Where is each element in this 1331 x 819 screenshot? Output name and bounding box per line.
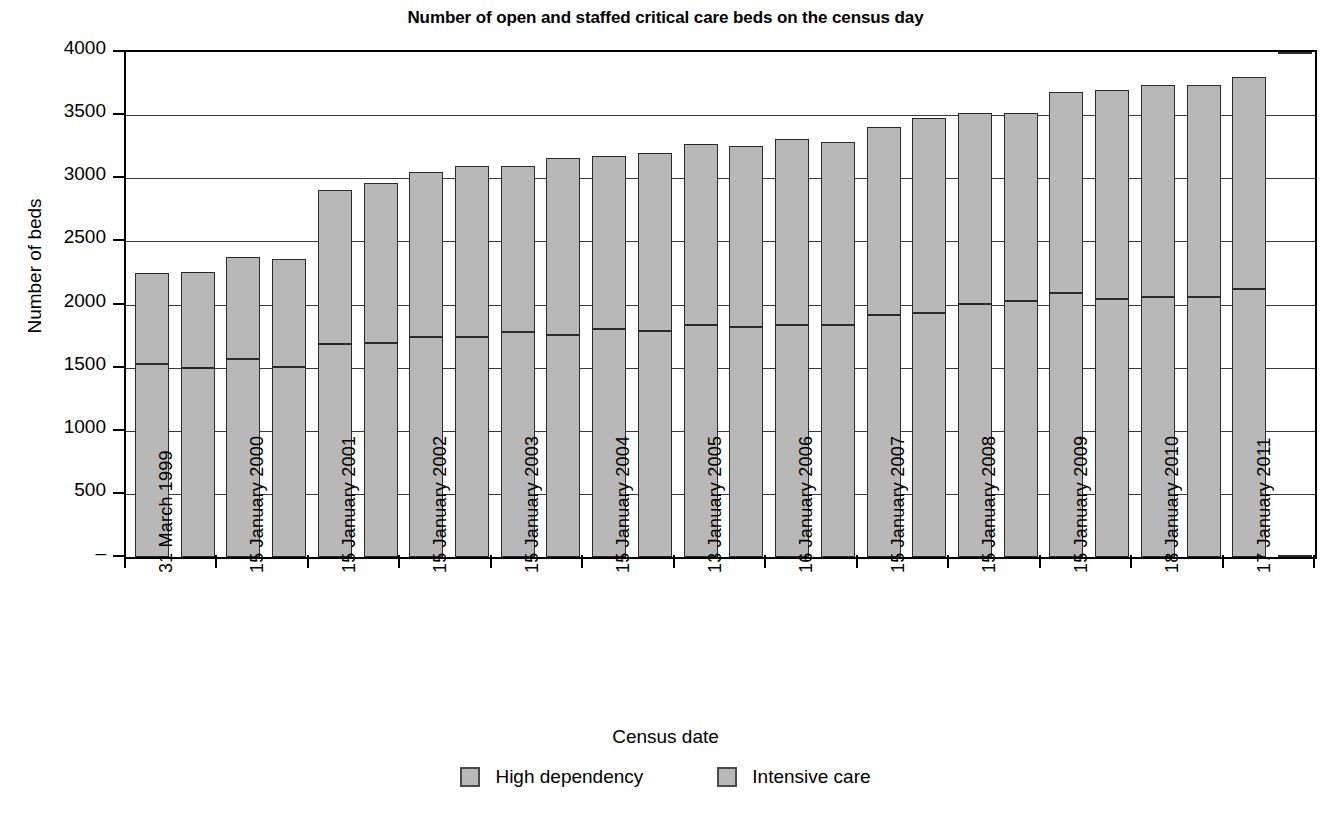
bar-segment-high-dependency[interactable]: [226, 257, 260, 359]
bar-segment-high-dependency[interactable]: [684, 144, 718, 325]
legend-item[interactable]: High dependency: [460, 766, 643, 788]
bar-segment-high-dependency[interactable]: [409, 172, 443, 337]
x-axis-tick-label: 15 January 2007: [888, 436, 909, 573]
bar-group[interactable]: [272, 52, 306, 557]
bar-segment-high-dependency[interactable]: [821, 142, 855, 326]
bar-segment-high-dependency[interactable]: [1095, 90, 1129, 300]
bar-segment-intensive-care[interactable]: [1095, 299, 1129, 557]
y-axis-tick-mark: [113, 176, 124, 178]
x-axis-tick-label: 15 January 2001: [339, 436, 360, 573]
x-axis-tick-mark: [673, 555, 675, 568]
bar-segment-high-dependency[interactable]: [1004, 113, 1038, 302]
x-axis-tick-mark: [215, 555, 217, 568]
bar-group[interactable]: [821, 52, 855, 557]
bar-segment-high-dependency[interactable]: [1278, 52, 1312, 54]
x-axis-tick-label: 15 January 2008: [979, 436, 1000, 573]
legend-swatch-icon: [717, 767, 737, 787]
y-axis-tick-label: 2500: [26, 226, 106, 248]
bar-segment-high-dependency[interactable]: [501, 166, 535, 333]
bar-segment-intensive-care[interactable]: [1004, 301, 1038, 557]
bar-segment-high-dependency[interactable]: [912, 118, 946, 313]
x-axis-tick-label: 15 January 2009: [1071, 436, 1092, 573]
bar-group[interactable]: [364, 52, 398, 557]
bar-segment-intensive-care[interactable]: [272, 367, 306, 557]
y-axis-tick-label: 500: [26, 479, 106, 501]
bar-group[interactable]: [638, 52, 672, 557]
x-axis-tick-mark: [1313, 555, 1315, 568]
y-axis-tick-mark: [113, 239, 124, 241]
bar-segment-intensive-care[interactable]: [729, 327, 763, 557]
bar-segment-high-dependency[interactable]: [546, 158, 580, 335]
bar-segment-intensive-care[interactable]: [638, 331, 672, 557]
bar-segment-high-dependency[interactable]: [318, 190, 352, 345]
bar-segment-intensive-care[interactable]: [821, 325, 855, 557]
bar-segment-high-dependency[interactable]: [1141, 85, 1175, 296]
bar-segment-intensive-care[interactable]: [1187, 297, 1221, 557]
x-axis-tick-label: 13 January 2005: [705, 436, 726, 573]
x-axis-tick-label: 31 March 1999: [156, 450, 177, 573]
bar-group[interactable]: [455, 52, 489, 557]
x-axis-tick-mark: [764, 555, 766, 568]
legend-swatch-icon: [460, 767, 480, 787]
bar-segment-high-dependency[interactable]: [1232, 77, 1266, 289]
x-axis-tick-label: 15 January 2004: [613, 436, 634, 573]
y-axis-tick-label: 2000: [26, 290, 106, 312]
y-axis-tick-mark: [113, 555, 124, 557]
x-axis-tick-mark: [490, 555, 492, 568]
bar-segment-intensive-care[interactable]: [455, 337, 489, 557]
bar-group[interactable]: [1095, 52, 1129, 557]
bar-segment-intensive-care[interactable]: [181, 368, 215, 557]
bar-group[interactable]: [1278, 52, 1312, 557]
legend-item[interactable]: Intensive care: [717, 766, 870, 788]
bar-segment-high-dependency[interactable]: [958, 113, 992, 304]
x-axis-tick-mark: [1222, 555, 1224, 568]
y-axis-tick-label: 4000: [26, 37, 106, 59]
bar-segment-high-dependency[interactable]: [729, 146, 763, 327]
x-axis-tick-label: 16 January 2006: [796, 436, 817, 573]
bar-segment-high-dependency[interactable]: [775, 139, 809, 326]
critical-care-beds-chart: Number of open and staffed critical care…: [0, 0, 1331, 819]
x-axis-tick-mark: [307, 555, 309, 568]
bar-segment-intensive-care[interactable]: [546, 335, 580, 557]
x-axis-title: Census date: [0, 726, 1331, 748]
legend-label: Intensive care: [752, 766, 870, 788]
legend-label: High dependency: [495, 766, 643, 788]
x-axis-tick-label: 17 January 2011: [1254, 437, 1275, 573]
bar-segment-intensive-care[interactable]: [1278, 555, 1312, 557]
bar-segment-high-dependency[interactable]: [1187, 85, 1221, 297]
x-axis-tick-mark: [581, 555, 583, 568]
bar-segment-high-dependency[interactable]: [181, 272, 215, 368]
bar-group[interactable]: [181, 52, 215, 557]
bar-segment-high-dependency[interactable]: [272, 259, 306, 367]
bar-group[interactable]: [729, 52, 763, 557]
bar-group[interactable]: [912, 52, 946, 557]
bar-group[interactable]: [1004, 52, 1038, 557]
x-axis-tick-label: 15 January 2000: [247, 436, 268, 573]
x-axis-tick-mark: [1130, 555, 1132, 568]
bar-segment-high-dependency[interactable]: [364, 183, 398, 343]
bar-segment-high-dependency[interactable]: [455, 166, 489, 338]
bar-segment-high-dependency[interactable]: [638, 153, 672, 331]
x-axis-tick-label: 18 January 2010: [1162, 436, 1183, 573]
bar-group[interactable]: [1187, 52, 1221, 557]
bar-segment-intensive-care[interactable]: [364, 343, 398, 557]
bar-segment-intensive-care[interactable]: [912, 313, 946, 557]
x-axis-tick-mark: [398, 555, 400, 568]
chart-title: Number of open and staffed critical care…: [0, 8, 1331, 28]
x-axis-tick-mark: [947, 555, 949, 568]
bar-segment-high-dependency[interactable]: [1049, 92, 1083, 293]
y-axis-tick-label: 1000: [26, 416, 106, 438]
bar-segment-high-dependency[interactable]: [867, 127, 901, 315]
bar-segment-high-dependency[interactable]: [592, 156, 626, 330]
chart-legend: High dependencyIntensive care: [0, 766, 1331, 788]
x-axis-tick-label: 15 January 2002: [430, 436, 451, 573]
y-axis-tick-label: 3500: [26, 100, 106, 122]
y-axis-tick-label: –: [26, 542, 106, 564]
bar-segment-high-dependency[interactable]: [135, 273, 169, 365]
bar-group[interactable]: [546, 52, 580, 557]
y-axis-tick-mark: [113, 492, 124, 494]
y-axis-tick-mark: [113, 366, 124, 368]
y-axis-tick-label: 1500: [26, 353, 106, 375]
y-axis-tick-label: 3000: [26, 163, 106, 185]
x-axis-tick-mark: [124, 555, 126, 568]
